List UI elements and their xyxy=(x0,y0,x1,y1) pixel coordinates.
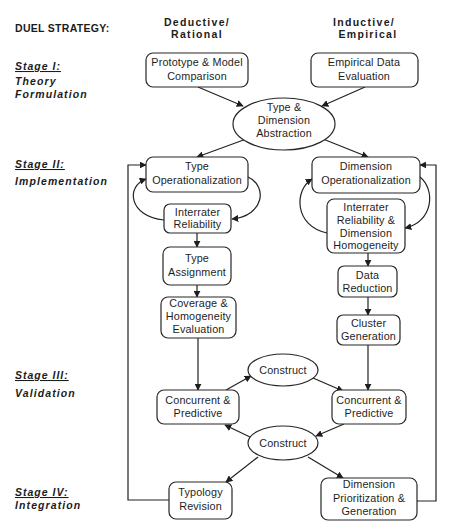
stage-1-label: Stage I: Theory Formulation xyxy=(15,60,88,100)
node-label: Evaluation xyxy=(173,323,225,335)
stage-2-label: Stage II: Implementation xyxy=(15,158,108,187)
node-interrater-reliability-right: Interrater Reliability & Dimension Homog… xyxy=(327,199,405,253)
column-header-inductive: Inductive/ Empirical xyxy=(333,16,398,40)
column-header-deductive: Deductive/ Rational xyxy=(164,16,230,40)
node-label: Typology xyxy=(178,486,223,498)
edge-abstraction-to-dimension-op xyxy=(323,139,368,157)
node-label: Interrater xyxy=(175,206,221,218)
node-interrater-reliability-left: Interrater Reliability xyxy=(164,204,231,233)
node-typology-revision: Typology Revision xyxy=(169,482,232,519)
stage-label: Stage III: xyxy=(15,369,69,381)
column-header-line: Rational xyxy=(171,28,223,40)
node-label: Generation xyxy=(342,505,397,517)
node-construct-bottom: Construct xyxy=(248,426,318,460)
node-label: Concurrent & xyxy=(165,394,231,406)
node-label: Concurrent & xyxy=(336,394,402,406)
edge-concurrent-left-to-construct xyxy=(226,376,251,390)
node-construct-top: Construct xyxy=(248,354,318,386)
edge-concurrent-right-to-construct xyxy=(316,424,344,436)
node-label: Predictive xyxy=(174,407,223,419)
stage-label: Stage II: xyxy=(15,158,65,170)
node-empirical-evaluation: Empirical Data Evaluation xyxy=(311,53,418,87)
node-abstraction: Type & Dimension Abstraction xyxy=(233,98,335,150)
node-label: Type xyxy=(185,252,209,264)
node-label: Homogeneity xyxy=(333,239,399,251)
node-prototype-comparison: Prototype & Model Comparison xyxy=(146,53,248,87)
node-label: Operationalization xyxy=(321,174,411,186)
column-header-line: Inductive/ xyxy=(333,16,395,28)
edge-abstraction-to-type-op xyxy=(197,138,249,157)
stage-name: Validation xyxy=(15,387,76,399)
diagram-title: DUEL STRATEGY: xyxy=(15,22,110,34)
stage-name: Formulation xyxy=(15,88,88,100)
node-label: Reduction xyxy=(343,282,393,294)
node-label: Evaluation xyxy=(338,70,390,82)
node-label: Cluster xyxy=(351,317,387,329)
node-label: Dimension xyxy=(258,114,310,126)
stage-label: Stage IV: xyxy=(15,486,69,498)
edge-construct-to-typology xyxy=(226,457,258,482)
node-label: Construct xyxy=(259,437,307,449)
node-label: Abstraction xyxy=(256,127,312,139)
node-label: Homogeneity xyxy=(166,310,232,322)
edge-empirical-to-abstraction xyxy=(322,87,365,106)
node-label: Predictive xyxy=(345,407,394,419)
stage-label: Stage I: xyxy=(15,60,61,72)
node-label: Reliability xyxy=(174,218,222,230)
node-cluster-generation: Cluster Generation xyxy=(337,315,400,345)
column-header-line: Deductive/ xyxy=(164,16,230,28)
stage-3-label: Stage III: Validation xyxy=(15,369,76,399)
node-label: Comparison xyxy=(167,70,227,82)
node-label: Coverage & xyxy=(169,297,228,309)
node-label: Data xyxy=(356,269,379,281)
node-concurrent-predictive-left: Concurrent & Predictive xyxy=(157,390,239,424)
node-label: Type & xyxy=(267,101,302,113)
node-type-assignment: Type Assignment xyxy=(163,247,231,285)
node-label: Dimension xyxy=(343,478,395,490)
column-header-line: Empirical xyxy=(339,28,398,40)
node-label: Dimension xyxy=(340,160,392,172)
stage-name: Theory xyxy=(15,75,57,87)
node-label: Interrater xyxy=(343,201,389,213)
stage-name: Integration xyxy=(15,499,81,511)
node-label: Generation xyxy=(341,330,396,342)
node-label: Operationalization xyxy=(152,174,242,186)
node-data-reduction: Data Reduction xyxy=(338,266,397,297)
node-label: Dimension xyxy=(340,227,392,239)
edge-feedback-prioritization-to-dimension-op xyxy=(417,165,436,501)
node-label: Revision xyxy=(179,500,222,512)
node-label: Reliability & xyxy=(337,214,396,226)
node-label: Empirical Data xyxy=(328,56,400,68)
node-coverage-evaluation: Coverage & Homogeneity Evaluation xyxy=(161,297,236,338)
edge-prototype-to-abstraction xyxy=(198,87,243,106)
edge-construct-to-concurrent-left xyxy=(225,425,250,437)
edge-construct-to-dimension-prioritization xyxy=(308,457,343,478)
node-label: Prioritization & xyxy=(333,492,406,504)
edge-construct-to-concurrent-right xyxy=(313,378,343,391)
duel-strategy-diagram: DUEL STRATEGY: Deductive/ Rational Induc… xyxy=(0,0,450,532)
stage-4-label: Stage IV: Integration xyxy=(15,486,81,511)
stage-name: Implementation xyxy=(15,175,108,187)
node-dimension-operationalization: Dimension Operationalization xyxy=(312,157,420,193)
node-dimension-prioritization: Dimension Prioritization & Generation xyxy=(321,478,417,520)
node-concurrent-predictive-right: Concurrent & Predictive xyxy=(332,390,406,424)
node-label: Type xyxy=(185,160,209,172)
node-type-operationalization: Type Operationalization xyxy=(146,157,248,192)
node-label: Construct xyxy=(259,364,307,376)
node-label: Assignment xyxy=(168,266,226,278)
node-label: Prototype & Model xyxy=(151,56,242,68)
